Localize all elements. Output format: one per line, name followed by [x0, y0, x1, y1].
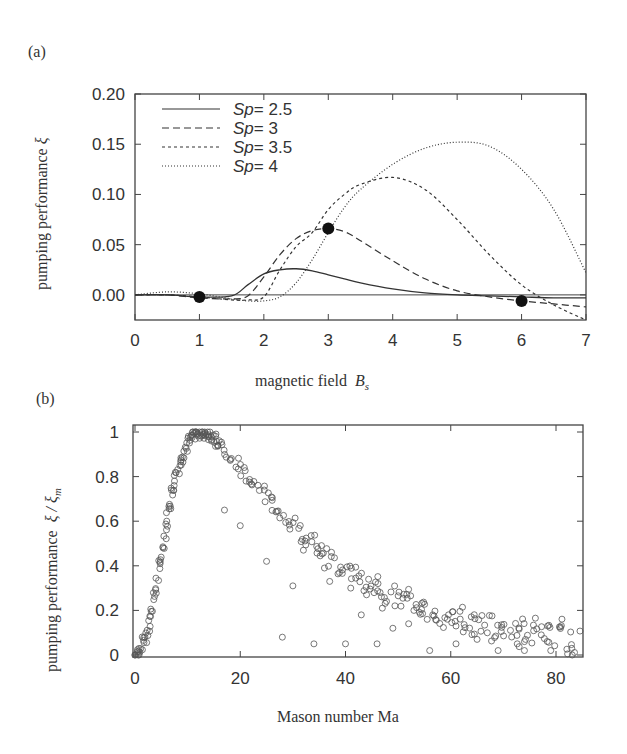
data-point	[539, 624, 545, 630]
scatter-points	[132, 429, 583, 658]
data-point	[309, 539, 315, 545]
data-point	[300, 547, 306, 553]
data-point	[538, 632, 544, 638]
data-point	[548, 648, 554, 654]
data-point	[450, 609, 456, 615]
data-point	[478, 628, 484, 634]
data-point	[390, 625, 396, 631]
data-point	[467, 625, 473, 631]
data-point	[457, 616, 463, 622]
data-point	[398, 603, 404, 609]
data-point	[440, 625, 446, 631]
data-point	[449, 620, 455, 626]
data-point	[312, 532, 318, 538]
data-point	[453, 641, 459, 647]
data-point	[358, 612, 364, 618]
data-point	[559, 616, 565, 622]
chart-b: 02040608000.20.40.60.81	[0, 0, 627, 754]
data-point	[348, 585, 354, 591]
data-point	[392, 583, 398, 589]
data-point	[472, 616, 478, 622]
data-point	[568, 629, 574, 635]
data-point	[287, 526, 293, 532]
data-point	[437, 620, 443, 626]
data-point	[424, 616, 430, 622]
x-tick-label: 40	[336, 669, 355, 688]
y-tick-label: 0.2	[95, 601, 119, 620]
data-point	[353, 564, 359, 570]
data-point	[530, 622, 536, 628]
x-tick-label: 60	[441, 669, 460, 688]
data-point	[163, 527, 169, 533]
data-point	[379, 605, 385, 611]
data-point	[371, 590, 377, 596]
data-point	[327, 578, 333, 584]
data-point	[264, 558, 270, 564]
data-point	[329, 549, 335, 555]
y-tick-label: 0	[110, 646, 119, 665]
data-point	[495, 648, 501, 654]
plot-frame	[133, 425, 583, 657]
y-tick-label: 0.6	[95, 512, 119, 531]
data-point	[427, 648, 433, 654]
y-tick-label: 0.8	[95, 468, 119, 487]
data-point	[290, 583, 296, 589]
x-tick-label: 0	[130, 669, 139, 688]
x-tick-label: 20	[231, 669, 250, 688]
data-point	[237, 523, 243, 529]
data-point	[521, 639, 527, 645]
data-point	[482, 622, 488, 628]
data-point	[474, 636, 480, 642]
data-point	[514, 632, 520, 638]
data-point	[374, 641, 380, 647]
data-point	[375, 574, 381, 580]
data-point	[357, 579, 363, 585]
data-point	[221, 507, 227, 513]
data-point	[235, 455, 241, 461]
data-point	[406, 621, 412, 627]
data-point	[577, 628, 583, 634]
data-point	[476, 617, 482, 623]
data-point	[532, 615, 538, 621]
x-tick-label: 80	[547, 669, 566, 688]
data-point	[484, 630, 490, 636]
data-point	[279, 634, 285, 640]
data-point	[238, 473, 244, 479]
data-point	[311, 641, 317, 647]
data-point	[261, 483, 267, 489]
y-tick-label: 0.4	[95, 557, 119, 576]
panel-b-xlabel: Mason number Ma	[277, 708, 399, 726]
data-point	[388, 589, 394, 595]
data-point	[366, 576, 372, 582]
data-point	[262, 499, 268, 505]
data-point	[529, 640, 535, 646]
data-point	[507, 627, 513, 633]
data-point	[171, 478, 177, 484]
data-point	[479, 613, 485, 619]
data-point	[392, 603, 398, 609]
y-tick-label: 1	[110, 423, 119, 442]
data-point	[343, 641, 349, 647]
data-point	[521, 648, 527, 654]
